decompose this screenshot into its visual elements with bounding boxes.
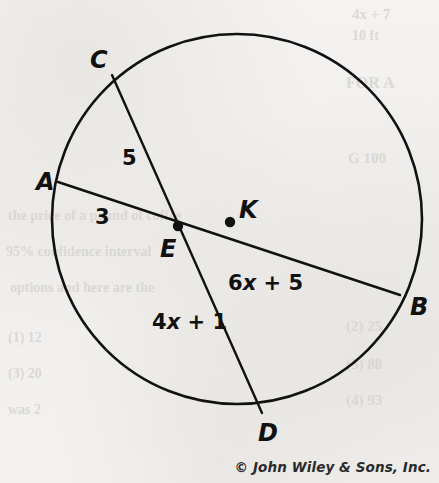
point-label-a: A <box>34 168 55 196</box>
figure-page: 4x + 710 ftFOR AG 100the price of a poun… <box>0 0 439 483</box>
copyright-attribution: © John Wiley & Sons, Inc. <box>235 459 431 475</box>
chord-cd <box>112 75 262 413</box>
circle-geometry-figure: ABCDEK 536x + 54x + 1 <box>0 0 439 483</box>
point-label-k: K <box>239 196 260 224</box>
point-label-b: B <box>410 293 428 321</box>
point-label-d: D <box>258 419 278 447</box>
point-label-group: ABCDEK <box>34 46 428 447</box>
point-label-e: E <box>160 235 177 263</box>
point-dot-k <box>225 217 235 227</box>
segment-label-ed: 4x + 1 <box>152 310 227 334</box>
segment-label-ae: 3 <box>95 205 110 229</box>
point-label-c: C <box>90 46 108 74</box>
segment-label-group: 536x + 54x + 1 <box>95 146 303 334</box>
segment-label-eb: 6x + 5 <box>228 271 303 295</box>
segment-label-ce: 5 <box>122 146 137 170</box>
chord-group <box>58 75 400 413</box>
point-dot-e <box>173 221 183 231</box>
